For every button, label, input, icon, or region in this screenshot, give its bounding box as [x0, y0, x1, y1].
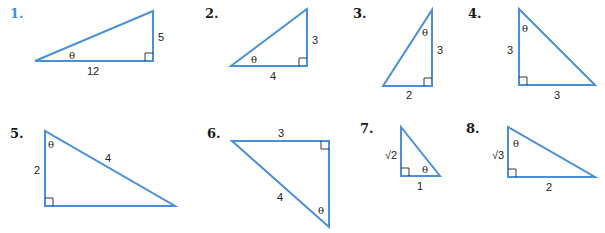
side-label: 3 — [312, 34, 318, 46]
right-angle-marker — [321, 141, 329, 149]
angle-label: θ — [69, 50, 75, 61]
problem-7: 7. √2 1 θ — [360, 121, 440, 192]
angle-label: θ — [422, 164, 428, 175]
angle-label: θ — [48, 139, 54, 150]
right-triangle — [508, 127, 595, 177]
problem-2: 2. 3 4 θ — [205, 6, 318, 82]
side-label: 5 — [158, 31, 164, 43]
right-triangle — [519, 9, 595, 85]
side-label: 2 — [406, 89, 412, 101]
side-label: 1 — [417, 180, 423, 192]
side-label: 3 — [554, 89, 560, 101]
right-triangle — [401, 127, 440, 176]
problem-1: 1. 5 12 θ — [10, 6, 164, 77]
angle-label: θ — [251, 54, 257, 65]
side-label: 3 — [507, 44, 513, 56]
right-triangle — [232, 141, 329, 227]
problem-3: 3. 3 2 θ — [353, 6, 443, 101]
side-label: √2 — [385, 149, 397, 161]
side-label: 12 — [87, 65, 99, 77]
right-triangle — [231, 9, 307, 66]
angle-label: θ — [318, 205, 324, 216]
problem-5: 5. 2 4 θ — [10, 126, 175, 206]
angle-label: θ — [422, 27, 428, 38]
angle-label: θ — [522, 23, 528, 34]
problem-4: 4. 3 3 θ — [468, 6, 595, 101]
side-label: 2 — [34, 164, 40, 176]
side-label: √3 — [492, 149, 504, 161]
right-angle-marker — [299, 58, 307, 66]
problem-number: 3. — [353, 6, 367, 21]
side-label: 4 — [270, 70, 276, 82]
problem-number: 8. — [466, 121, 480, 136]
problem-number: 1. — [10, 6, 24, 21]
problem-8: 8. √3 2 θ — [466, 121, 595, 193]
problem-number: 5. — [10, 126, 24, 141]
problem-number: 4. — [468, 6, 482, 21]
right-angle-marker — [45, 198, 53, 206]
triangle-exercises: 1. 5 12 θ 2. 3 4 θ 3. 3 2 θ 4. 3 3 θ 5. … — [0, 0, 605, 233]
right-angle-marker — [508, 169, 516, 177]
problem-number: 6. — [207, 126, 221, 141]
right-triangle — [383, 10, 432, 86]
side-label: 3 — [437, 44, 443, 56]
side-label: 4 — [105, 152, 111, 164]
problem-number: 2. — [205, 6, 219, 21]
angle-label: θ — [513, 138, 519, 149]
right-angle-marker — [145, 53, 153, 61]
right-angle-marker — [424, 78, 432, 86]
right-angle-marker — [519, 77, 527, 85]
side-label: 3 — [278, 127, 284, 139]
right-triangle — [35, 11, 153, 61]
right-angle-marker — [401, 168, 409, 176]
side-label: 4 — [277, 191, 283, 203]
right-triangle — [45, 131, 175, 206]
problem-6: 6. 3 4 θ — [207, 126, 329, 227]
side-label: 2 — [546, 181, 552, 193]
problem-number: 7. — [360, 121, 374, 136]
